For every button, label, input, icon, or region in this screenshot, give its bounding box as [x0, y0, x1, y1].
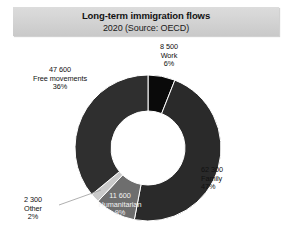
slice-label-other: 2 300 Other 2%	[12, 196, 54, 222]
slice-label-family: 62 300 Family 47%	[201, 166, 261, 192]
slice-percent-humanitarian: 9%	[90, 209, 150, 218]
slice-label-humanitarian: 11 600 Humanitarian 9%	[90, 192, 150, 218]
chart-figure: Long-term immigration flows 2020 (Source…	[0, 0, 289, 246]
donut-slice-free-movements[interactable]	[75, 75, 148, 195]
slice-label-free-movements: 47 600 Free movements 36%	[22, 66, 98, 92]
slice-percent-other: 2%	[12, 213, 54, 222]
slice-label-work: 8 500 Work 6%	[143, 43, 195, 69]
slice-percent-free-movements: 36%	[22, 83, 98, 92]
slice-percent-family: 47%	[201, 183, 261, 192]
slice-percent-work: 6%	[143, 60, 195, 69]
